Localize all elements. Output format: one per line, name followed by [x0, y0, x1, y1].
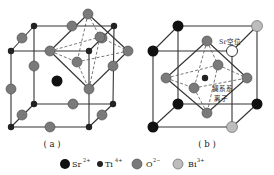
legend-sr-swatch: [60, 159, 70, 169]
perovskite-diagram: ( a ): [0, 0, 274, 175]
lanthanide-label-line1: 镧系系: [212, 84, 233, 93]
legend-bi-charge: 3+: [197, 157, 204, 163]
panel-b-structure: [148, 21, 263, 133]
legend-o-charge: 2−: [153, 157, 160, 163]
strontium-atom-center: [52, 76, 63, 87]
sr-vacancy-label: Sr空位: [219, 37, 241, 46]
legend-ti-symbol: Ti: [105, 160, 113, 169]
legend: Sr 2+ Ti 4+ O 2− Bi 3+: [60, 157, 204, 169]
lanthanide-label-line2: 离子: [214, 94, 228, 103]
legend-ti-charge: 4+: [115, 157, 122, 163]
titanium-atom-center: [202, 75, 208, 81]
panel-a-caption: ( a ): [43, 139, 60, 149]
legend-o-symbol: O: [146, 160, 153, 169]
legend-sr-charge: 2+: [83, 157, 90, 163]
legend-ti-swatch: [97, 161, 103, 167]
legend-o-swatch: [132, 159, 142, 169]
legend-bi-symbol: Bi: [188, 160, 197, 169]
panel-b-caption: ( b ): [198, 139, 215, 149]
legend-bi-swatch: [173, 159, 183, 169]
legend-sr-symbol: Sr: [72, 160, 81, 169]
sr-vacancy-site: [227, 46, 238, 57]
panel-a-structure: [6, 9, 133, 132]
